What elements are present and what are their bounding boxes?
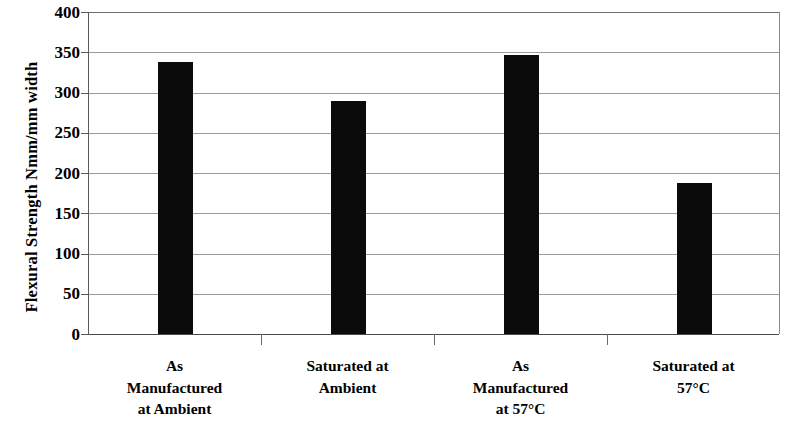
y-axis-tick-label: 350 <box>34 44 80 61</box>
y-axis-tick-mark <box>81 213 89 214</box>
y-axis-tick-label: 50 <box>34 285 80 302</box>
x-axis-category-label: Saturated at57°C <box>607 355 780 398</box>
category-label-line: at Ambient <box>88 398 261 420</box>
category-label-line: 57°C <box>607 377 780 399</box>
category-boundary-tick <box>261 334 262 345</box>
category-label-line: Ambient <box>261 377 434 399</box>
y-axis-tick-label: 100 <box>34 245 80 262</box>
plot-area <box>88 12 780 334</box>
y-axis-tick-label: 400 <box>34 4 80 21</box>
y-axis-tick-mark <box>81 52 89 53</box>
bar <box>331 101 366 334</box>
y-axis-tick-label: 300 <box>34 84 80 101</box>
y-axis-tick-labels: 400350300250200150100500 <box>28 0 80 441</box>
category-label-line: Saturated at <box>607 355 780 377</box>
y-axis-tick-mark <box>81 334 89 335</box>
gridline <box>89 12 779 13</box>
bar <box>677 183 712 334</box>
y-axis-tick-mark <box>81 133 89 134</box>
flexural-strength-bar-chart: Flexural Strength Nmm/mm width 400350300… <box>0 0 785 441</box>
y-axis-tick-mark <box>81 254 89 255</box>
y-axis-tick-mark <box>81 12 89 13</box>
bar <box>504 55 539 334</box>
category-label-line: Manufactured <box>88 377 261 399</box>
y-axis-tick-label: 0 <box>34 326 80 343</box>
category-label-line: As <box>88 355 261 377</box>
x-axis-category-label: AsManufacturedat 57°C <box>434 355 607 420</box>
x-axis-category-label: Saturated atAmbient <box>261 355 434 398</box>
y-axis-tick-label: 250 <box>34 124 80 141</box>
y-axis-tick-mark <box>81 294 89 295</box>
category-label-line: Manufactured <box>434 377 607 399</box>
y-axis-tick-label: 200 <box>34 165 80 182</box>
y-axis-tick-label: 150 <box>34 205 80 222</box>
y-axis-tick-mark <box>81 173 89 174</box>
category-boundary-tick <box>434 334 435 345</box>
gridline <box>89 52 779 53</box>
x-axis-category-label: AsManufacturedat Ambient <box>88 355 261 420</box>
category-label-line: Saturated at <box>261 355 434 377</box>
bar <box>158 62 193 334</box>
category-boundary-tick <box>607 334 608 345</box>
y-axis-tick-mark <box>81 93 89 94</box>
category-label-line: at 57°C <box>434 398 607 420</box>
category-label-line: As <box>434 355 607 377</box>
